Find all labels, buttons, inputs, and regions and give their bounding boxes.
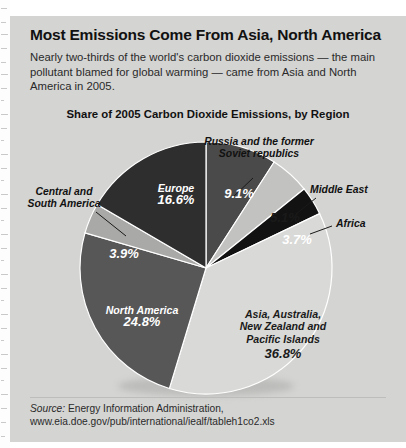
- scan-artifact-mark: [1, 380, 4, 381]
- scan-artifact-mark: [1, 274, 8, 275]
- scan-artifact-mark: [1, 328, 7, 329]
- scan-artifact-mark: [1, 194, 8, 195]
- scan-artifact-mark: [1, 100, 4, 101]
- source-label: Source:: [30, 403, 65, 414]
- scan-artifact-mark: [1, 408, 7, 409]
- pie-slices: [80, 142, 332, 394]
- scan-artifact-mark: [1, 368, 7, 369]
- footer-divider: [30, 397, 386, 398]
- infographic-root: Most Emissions Come From Asia, North Ame…: [0, 0, 406, 448]
- scan-artifact-mark: [1, 114, 8, 115]
- source-url: www.eia.doe.gov/pub/international/iealf/…: [30, 416, 275, 427]
- page-title: Most Emissions Come From Asia, North Ame…: [30, 26, 390, 44]
- callout-central-south-america: Central and South America: [16, 186, 112, 211]
- scan-artifact-mark: [1, 422, 6, 423]
- scan-artifact-mark: [1, 354, 8, 355]
- scan-artifact-mark: [1, 436, 5, 437]
- scan-artifact-mark: [1, 62, 6, 63]
- infographic-panel: Most Emissions Come From Asia, North Ame…: [10, 16, 406, 442]
- scan-artifact-mark: [1, 22, 6, 23]
- scan-artifact-mark: [1, 234, 8, 235]
- scan-artifact-mark: [1, 208, 7, 209]
- scan-artifact-mark: [1, 340, 4, 341]
- scan-artifact-mark: [1, 260, 4, 261]
- scan-artifact-mark: [1, 34, 8, 35]
- scan-artifact-mark: [1, 314, 8, 315]
- source-note: Source: Energy Information Administratio…: [30, 402, 390, 428]
- pie-svg: [10, 126, 406, 416]
- scan-artifact-mark: [1, 300, 4, 301]
- callout-africa: Africa: [336, 218, 402, 230]
- scan-artifact-mark: [1, 248, 7, 249]
- deck-paragraph: Nearly two-thirds of the world's carbon …: [30, 50, 386, 94]
- chart-title: Share of 2005 Carbon Dioxide Emissions, …: [10, 108, 406, 120]
- scan-artifact-mark: [1, 180, 4, 181]
- scan-artifact-mark: [1, 168, 7, 169]
- scan-artifact-mark: [1, 128, 7, 129]
- scan-artifact-mark: [1, 140, 4, 141]
- scan-artifact-mark: [1, 8, 7, 9]
- callout-middle-east: Middle East: [310, 184, 402, 196]
- scan-artifact-mark: [1, 288, 7, 289]
- callout-russia: Russia and the former Soviet republics: [186, 136, 332, 161]
- scan-artifact-mark: [1, 88, 7, 89]
- scan-artifact-mark: [1, 74, 8, 75]
- scan-artifact-strip: [0, 0, 10, 448]
- source-organization: Energy Information Administration,: [68, 403, 224, 414]
- scan-artifact-mark: [1, 394, 8, 395]
- pie-chart: Russia and the former Soviet republics M…: [10, 126, 406, 416]
- scan-artifact-mark: [1, 48, 7, 49]
- scan-artifact-mark: [1, 220, 4, 221]
- scan-artifact-mark: [1, 154, 8, 155]
